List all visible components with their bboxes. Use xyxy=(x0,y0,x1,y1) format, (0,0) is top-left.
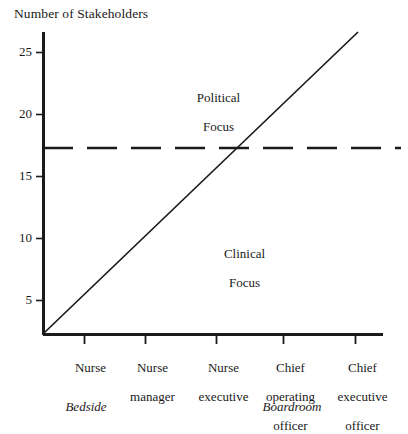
annotation-line-2: Focus xyxy=(229,275,260,290)
x-label-line-1: Chief xyxy=(276,360,305,375)
y-tick-label-15: 15 xyxy=(4,169,32,184)
annotation-political-focus: Political Focus xyxy=(152,76,272,149)
x-label-line-1: Chief xyxy=(348,360,377,375)
y-tick-label-20: 20 xyxy=(4,107,32,122)
y-axis-title: Number of Stakeholders xyxy=(14,6,148,21)
y-tick-label-5: 5 xyxy=(4,293,32,308)
x-tick-label-chief-executive-officer: Chief executive officer xyxy=(308,346,404,434)
annotation-line-2: Focus xyxy=(203,119,234,134)
annotation-line-1: Clinical xyxy=(224,246,265,261)
y-tick-label-10: 10 xyxy=(4,231,32,246)
x-label-line-1: Nurse xyxy=(208,360,239,375)
y-tick-label-25: 25 xyxy=(4,45,32,60)
annotation-line-1: Political xyxy=(197,90,240,105)
x-label-line-1: Nurse xyxy=(137,360,168,375)
x-label-line-3: officer xyxy=(273,418,307,433)
axis-end-label-bedside: Bedside xyxy=(26,400,146,415)
axis-end-label-boardroom: Boardroom xyxy=(232,400,352,415)
annotation-clinical-focus: Clinical Focus xyxy=(178,232,298,305)
x-label-line-3: officer xyxy=(345,418,379,433)
